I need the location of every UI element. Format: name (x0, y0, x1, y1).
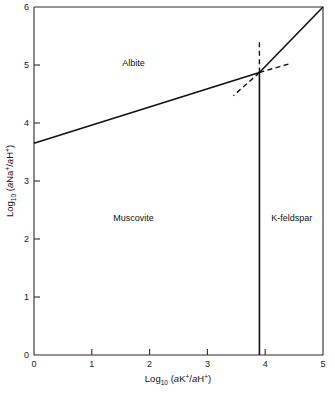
phase-diagram-plot: 012345 0123456 AlbiteMuscoviteK-feldspar… (0, 0, 335, 393)
y-tick-label: 2 (24, 234, 29, 244)
y-axis-ticks: 0123456 (24, 2, 40, 360)
y-tick-label: 1 (24, 292, 29, 302)
x-tick-label: 4 (263, 359, 268, 369)
axis-frame (34, 7, 323, 355)
y-tick-label: 6 (24, 2, 29, 12)
phase-boundary-curves (34, 7, 323, 355)
x-axis-title: Log10 (aK+/aH+) (145, 373, 211, 386)
y-tick-label: 5 (24, 60, 29, 70)
albite-kfeldspar-boundary (259, 7, 323, 73)
plot-frame (34, 7, 323, 355)
x-tick-label: 2 (147, 359, 152, 369)
x-tick-label: 0 (31, 359, 36, 369)
x-tick-label: 3 (205, 359, 210, 369)
y-tick-label: 4 (24, 118, 29, 128)
y-tick-label: 0 (24, 350, 29, 360)
x-tick-label: 5 (320, 359, 325, 369)
y-axis-title: Log10 (aNa+/aH+) (4, 145, 17, 217)
x-axis-ticks: 012345 (31, 349, 325, 369)
albite-field-label: Albite (122, 58, 145, 68)
kfeldspar-field-label: K-feldspar (271, 213, 312, 223)
albite-muscovite-boundary (34, 73, 259, 144)
x-tick-label: 1 (89, 359, 94, 369)
mineral-field-labels: AlbiteMuscoviteK-feldspar (113, 58, 312, 223)
phase-diagram-figure: 012345 0123456 AlbiteMuscoviteK-feldspar… (0, 0, 335, 393)
y-tick-label: 3 (24, 176, 29, 186)
muscovite-field-label: Muscovite (113, 213, 154, 223)
